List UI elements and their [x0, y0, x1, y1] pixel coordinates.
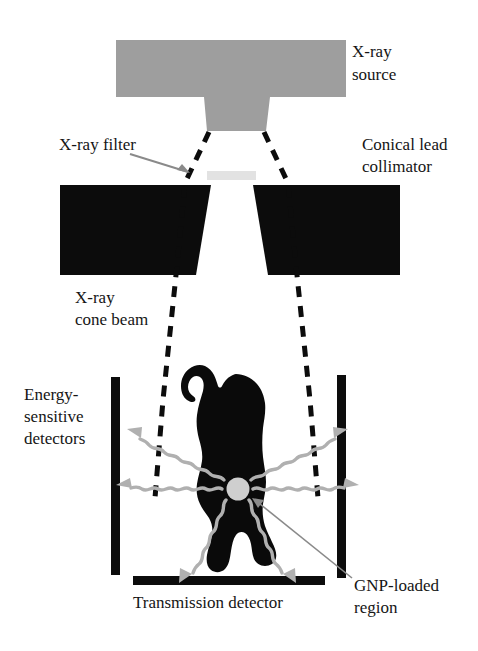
collimator-right-block [253, 185, 400, 275]
label-xray-source-line2: source [352, 65, 396, 84]
label-transmission-detector: Transmission detector [133, 593, 283, 612]
energy-detector-right-bar [337, 375, 346, 578]
gnp-loaded-region-sphere [227, 478, 250, 501]
energy-detector-left-bar [111, 377, 120, 575]
label-gnp-region-line1: GNP-loaded [354, 576, 439, 595]
label-cone-beam-line2: cone beam [75, 310, 148, 329]
label-conical-collimator-line1: Conical lead [362, 135, 448, 154]
label-gnp-region-line2: region [354, 598, 398, 617]
xray-setup-diagram: X-ray source X-ray filter Conical lead c… [0, 0, 478, 651]
label-conical-collimator-line2: collimator [362, 157, 432, 176]
transmission-detector-bar [133, 576, 325, 585]
label-cone-beam-line1: X-ray [75, 288, 115, 307]
label-xray-filter: X-ray filter [59, 135, 136, 154]
diagram-canvas: X-ray source X-ray filter Conical lead c… [0, 0, 478, 651]
label-xray-source-line1: X-ray [352, 42, 392, 61]
label-energy-detectors-line1: Energy- [24, 385, 79, 404]
xray-filter-bar [207, 171, 256, 180]
collimator-left-block [60, 185, 211, 275]
label-energy-detectors-line2: sensitive [24, 407, 84, 426]
label-energy-detectors-line3: detectors [24, 429, 85, 448]
